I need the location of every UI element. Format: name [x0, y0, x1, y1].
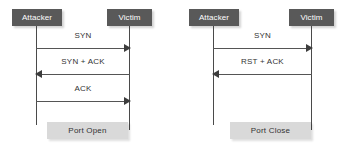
- arrowhead-right-icon: [306, 44, 313, 52]
- message-line-syn-ack: [36, 74, 130, 75]
- arrowhead-left-icon: [212, 70, 219, 78]
- arrowhead-left-icon: [35, 70, 42, 78]
- actor-label-attacker: Attacker: [22, 13, 52, 22]
- message-syn: SYN: [213, 42, 312, 58]
- diagram-port-close: Attacker Victim SYN RST + ACK Port Close: [176, 0, 351, 149]
- message-label-rst-ack: RST + ACK: [213, 57, 312, 66]
- result-box-port-open: Port Open: [47, 122, 128, 139]
- message-line-syn: [36, 48, 130, 49]
- message-label-ack: ACK: [36, 84, 130, 93]
- arrowhead-right-icon: [124, 97, 131, 105]
- result-label-port-open: Port Open: [68, 126, 106, 135]
- actor-box-victim: Victim: [289, 9, 334, 26]
- message-label-syn: SYN: [36, 31, 130, 40]
- message-label-syn-ack: SYN + ACK: [36, 57, 130, 66]
- result-box-port-close: Port Close: [230, 122, 311, 139]
- message-syn-ack: SYN + ACK: [36, 68, 130, 84]
- actor-box-attacker: Attacker: [12, 9, 62, 26]
- message-line-rst-ack: [213, 74, 312, 75]
- sequence-diagram-canvas: Attacker Victim SYN SYN + ACK ACK Port O…: [0, 0, 351, 149]
- actor-box-attacker: Attacker: [189, 9, 239, 26]
- message-rst-ack: RST + ACK: [213, 68, 312, 84]
- diagram-port-open: Attacker Victim SYN SYN + ACK ACK Port O…: [0, 0, 176, 149]
- result-label-port-close: Port Close: [251, 126, 290, 135]
- actor-label-victim: Victim: [118, 13, 140, 22]
- message-line-syn: [213, 48, 312, 49]
- message-label-syn: SYN: [213, 31, 312, 40]
- actor-label-victim: Victim: [300, 13, 322, 22]
- actor-label-attacker: Attacker: [199, 13, 229, 22]
- arrowhead-right-icon: [124, 44, 131, 52]
- actor-box-victim: Victim: [107, 9, 152, 26]
- message-ack: ACK: [36, 95, 130, 111]
- message-line-ack: [36, 101, 130, 102]
- message-syn: SYN: [36, 42, 130, 58]
